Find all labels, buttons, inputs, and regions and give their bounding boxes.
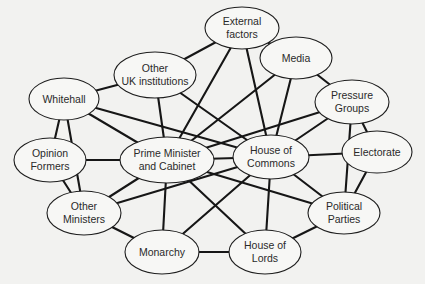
influence-network-diagram: ExternalfactorsOtherUK institutionsMedia…: [0, 0, 425, 284]
node-media: Media: [260, 37, 332, 79]
node-monarchy: Monarchy: [125, 230, 199, 274]
node-pressure: PressureGroups: [315, 80, 389, 124]
node-label: Commons: [247, 157, 295, 169]
node-label: Prime Minister: [133, 147, 201, 159]
node-label: Political: [326, 200, 362, 212]
node-label: Whitehall: [42, 93, 85, 105]
node-label: Monarchy: [139, 246, 186, 258]
node-label: House of: [244, 239, 286, 251]
node-label: factors: [226, 28, 258, 40]
node-other_uk: OtherUK institutions: [114, 52, 196, 98]
node-label: External: [223, 15, 262, 27]
node-opinion: OpinionFormers: [14, 138, 86, 182]
node-label: Lords: [252, 252, 278, 264]
node-label: Media: [282, 52, 311, 64]
node-label: Parties: [328, 213, 361, 225]
node-label: UK institutions: [121, 75, 188, 87]
node-label: Other: [71, 200, 98, 212]
node-label: Other: [142, 62, 169, 74]
node-parties: PoliticalParties: [308, 192, 380, 234]
node-external: Externalfactors: [205, 7, 279, 49]
node-label: House of: [250, 144, 292, 156]
node-electorate: Electorate: [342, 131, 412, 173]
node-label: Pressure: [331, 89, 373, 101]
node-other_min: OtherMinisters: [47, 191, 121, 235]
node-label: Groups: [335, 102, 369, 114]
node-label: Opinion: [32, 147, 68, 159]
node-pm: Prime Ministerand Cabinet: [120, 137, 214, 183]
node-label: Ministers: [63, 213, 105, 225]
node-commons: House ofCommons: [233, 135, 309, 179]
node-lords: House ofLords: [229, 230, 301, 274]
node-label: Formers: [30, 160, 69, 172]
node-label: Electorate: [353, 146, 400, 158]
node-whitehall: Whitehall: [29, 78, 99, 120]
node-label: and Cabinet: [139, 160, 196, 172]
